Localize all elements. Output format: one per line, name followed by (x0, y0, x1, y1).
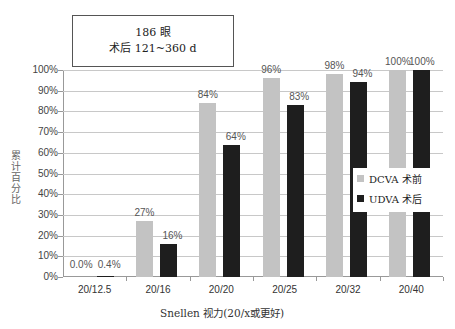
gridline (63, 91, 443, 92)
y-tick-label: 100% (8, 64, 58, 75)
bar-value-label: 94% (343, 68, 383, 79)
bar-dcva (263, 78, 280, 277)
bar-value-label: 27% (125, 207, 165, 218)
bar-udva (160, 244, 177, 277)
y-tick-label: 50% (8, 168, 58, 179)
x-tick-label: 20/32 (318, 284, 378, 295)
bar-value-label: 84% (188, 89, 228, 100)
bar-value-label: 16% (153, 230, 193, 241)
x-axis-label: Snellen 视力(20/x或更好) (160, 305, 284, 320)
bar-value-label: 64% (216, 131, 256, 142)
y-tick-label: 0% (8, 271, 58, 282)
x-tick-mark (380, 277, 381, 281)
gridline (63, 256, 443, 257)
gridline (63, 236, 443, 237)
legend-swatch-dcva (357, 175, 364, 182)
x-tick-mark (126, 277, 127, 281)
x-tick-label: 20/12.5 (65, 284, 125, 295)
x-tick-label: 20/25 (255, 284, 315, 295)
bar-value-label: 0.4% (89, 259, 129, 270)
gridline (63, 153, 443, 154)
y-tick-label: 20% (8, 230, 58, 241)
x-tick-label: 20/40 (381, 284, 441, 295)
bar-dcva (199, 103, 216, 277)
bar-value-label: 96% (251, 64, 291, 75)
chart-title-box: 186 眼 术后 121~360 d (72, 15, 234, 67)
bar-dcva (136, 221, 153, 277)
y-tick-label: 10% (8, 250, 58, 261)
title-line-2: 术后 121~360 d (73, 41, 233, 57)
x-tick-mark (253, 277, 254, 281)
y-tick-label: 90% (8, 85, 58, 96)
legend-item-dcva: DCVA 术前 (353, 168, 443, 188)
y-tick-label: 30% (8, 209, 58, 220)
legend-label-dcva: DCVA 术前 (369, 171, 422, 186)
legend-label-udva: UDVA 术后 (369, 191, 422, 206)
gridline (63, 215, 443, 216)
bar-udva (223, 145, 240, 277)
bar-dcva (326, 74, 343, 277)
legend-item-udva: UDVA 术后 (353, 188, 443, 208)
x-tick-label: 20/16 (128, 284, 188, 295)
y-tick-mark (58, 277, 63, 278)
x-tick-mark (190, 277, 191, 281)
x-tick-mark (443, 277, 444, 281)
x-tick-mark (316, 277, 317, 281)
legend: DCVA 术前 UDVA 术后 (353, 168, 443, 212)
bar-value-label: 83% (279, 91, 319, 102)
y-tick-label: 70% (8, 126, 58, 137)
bar-udva (287, 105, 304, 277)
y-tick-label: 80% (8, 105, 58, 116)
y-tick-label: 40% (8, 188, 58, 199)
y-tick-label: 60% (8, 147, 58, 158)
gridline (63, 111, 443, 112)
legend-swatch-udva (357, 195, 364, 202)
bar-udva (97, 276, 114, 277)
bar-value-label: 100% (402, 56, 442, 67)
x-tick-label: 20/20 (191, 284, 251, 295)
title-line-1: 186 眼 (73, 25, 233, 41)
